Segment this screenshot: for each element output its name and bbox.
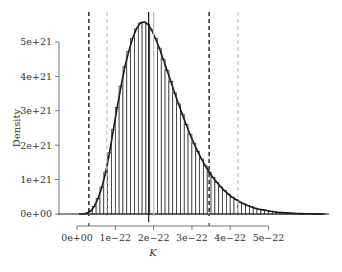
histogram-bars xyxy=(58,22,329,214)
x-tick-label: 3e−22 xyxy=(176,232,208,243)
x-axis-title: K xyxy=(148,247,157,258)
histogram-bar xyxy=(200,159,204,214)
x-axis: 0e+001e−222e−223e−224e−225e−22 xyxy=(61,226,284,243)
histogram-bar xyxy=(169,82,173,214)
histogram-bar xyxy=(134,29,138,214)
x-tick-label: 0e+00 xyxy=(61,232,93,243)
histogram-bar xyxy=(127,52,131,214)
histogram-bar xyxy=(223,191,227,214)
histogram-chart: 0e+001e+212e+213e+214e+215e+21 0e+001e−2… xyxy=(0,0,342,272)
histogram-bar xyxy=(207,172,211,214)
histogram-bar xyxy=(165,70,169,214)
histogram-bar xyxy=(184,125,188,214)
histogram-bar xyxy=(188,134,192,214)
y-tick-label: 1e+21 xyxy=(20,174,52,185)
histogram-bar xyxy=(173,93,177,214)
histogram-bar xyxy=(203,166,207,214)
x-tick-label: 4e−22 xyxy=(214,232,246,243)
histogram-bar xyxy=(226,194,230,214)
y-tick-label: 3e+21 xyxy=(20,105,52,116)
histogram-bar xyxy=(131,39,135,214)
y-tick-label: 0e+00 xyxy=(20,208,52,219)
histogram-bar xyxy=(142,22,146,214)
histogram-bar xyxy=(180,114,184,214)
y-axis-title: Density xyxy=(11,108,22,147)
histogram-bar xyxy=(123,67,127,214)
y-tick-label: 2e+21 xyxy=(20,140,52,151)
histogram-bar xyxy=(192,143,196,214)
histogram-bar xyxy=(219,187,223,214)
histogram-bar xyxy=(215,182,219,214)
histogram-bar xyxy=(161,59,165,214)
x-tick-label: 2e−22 xyxy=(138,232,170,243)
histogram-bar xyxy=(119,86,123,214)
x-tick-label: 1e−22 xyxy=(99,232,131,243)
histogram-bar xyxy=(230,197,234,214)
histogram-bar xyxy=(211,178,215,214)
histogram-bar xyxy=(157,48,161,214)
histogram-bar xyxy=(138,23,142,214)
x-tick-label: 5e−22 xyxy=(253,232,285,243)
y-tick-label: 5e+21 xyxy=(20,36,52,47)
y-axis: 0e+001e+212e+213e+214e+215e+21 xyxy=(20,36,59,219)
histogram-bar xyxy=(196,151,200,214)
histogram-bar xyxy=(177,104,181,214)
y-tick-label: 4e+21 xyxy=(20,71,52,82)
histogram-bar xyxy=(242,204,246,214)
histogram-bar xyxy=(115,107,119,214)
